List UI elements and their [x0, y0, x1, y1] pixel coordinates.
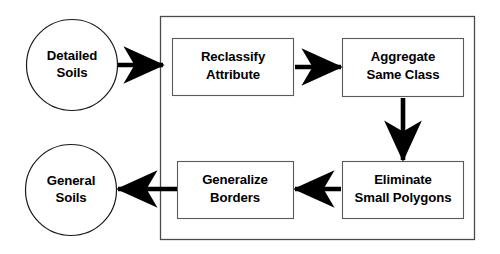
diagram-canvas: Detailed Soils General Soils Reclassify … — [0, 0, 500, 254]
node-general-soils[interactable]: General Soils — [26, 145, 117, 236]
node-detailed-soils[interactable]: Detailed Soils — [27, 20, 118, 111]
general-soils-label-line2: Soils — [55, 190, 86, 205]
node-reclassify-attribute[interactable]: Reclassify Attribute — [173, 39, 294, 96]
detailed-soils-label-line2: Soils — [56, 65, 87, 80]
aggregate-same-class-label-line2: Same Class — [366, 67, 439, 82]
detailed-soils-label-line1: Detailed — [47, 48, 98, 63]
node-aggregate-same-class[interactable]: Aggregate Same Class — [343, 39, 464, 97]
node-eliminate-small-polygons[interactable]: Eliminate Small Polygons — [343, 162, 464, 219]
aggregate-same-class-label-line1: Aggregate — [371, 49, 435, 64]
generalize-borders-label-line2: Borders — [210, 190, 260, 205]
eliminate-small-polygons-label-line1: Eliminate — [374, 172, 432, 187]
reclassify-attribute-label-line2: Attribute — [206, 67, 260, 82]
flowchart-svg: Detailed Soils General Soils Reclassify … — [0, 0, 500, 254]
generalize-borders-label-line1: Generalize — [202, 172, 268, 187]
eliminate-small-polygons-label-line2: Small Polygons — [355, 190, 452, 205]
general-soils-label-line1: General — [47, 173, 95, 188]
node-generalize-borders[interactable]: Generalize Borders — [178, 162, 294, 219]
reclassify-attribute-label-line1: Reclassify — [201, 49, 266, 64]
